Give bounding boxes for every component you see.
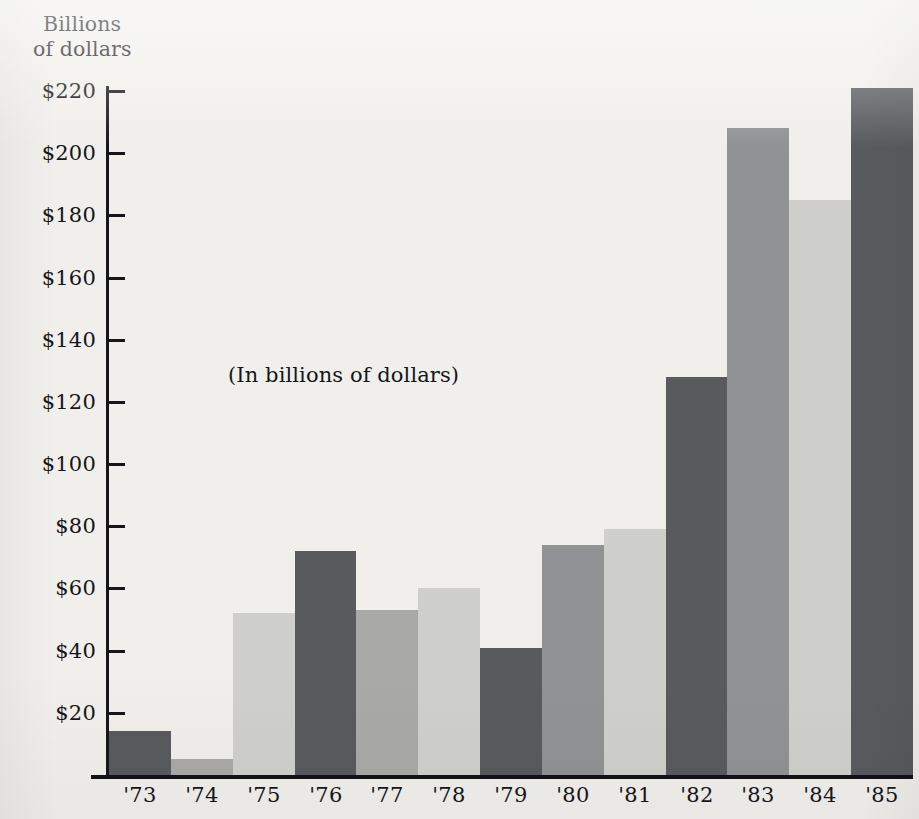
bar	[542, 545, 604, 775]
x-axis-tick-label: '73	[109, 783, 171, 807]
bar	[604, 529, 666, 775]
x-axis-tick-label: '77	[356, 783, 418, 807]
x-axis-tick-label: '75	[233, 783, 295, 807]
bar	[295, 551, 356, 775]
bar	[418, 588, 480, 775]
y-axis-labels: $20$40$60$80$100$120$140$160$180$200$220	[8, 0, 96, 819]
bar	[480, 648, 542, 775]
x-axis-tick-label: '80	[542, 783, 604, 807]
bar	[851, 88, 913, 775]
bar	[789, 200, 851, 775]
y-axis-tick-label: $120	[8, 390, 96, 414]
y-axis-tick-label: $20	[8, 701, 96, 725]
x-axis-tick-label: '85	[851, 783, 913, 807]
y-axis-tick-label: $40	[8, 639, 96, 663]
y-axis-tick-label: $80	[8, 514, 96, 538]
x-axis-tick-label: '76	[295, 783, 357, 807]
y-axis-tick-label: $180	[8, 203, 96, 227]
x-axis-tick-label: '83	[727, 783, 789, 807]
bar	[356, 610, 418, 775]
x-axis-tick-label: '82	[666, 783, 728, 807]
x-axis-tick-label: '79	[480, 783, 542, 807]
x-axis-tick-label: '74	[171, 783, 233, 807]
y-axis-tick-label: $60	[8, 576, 96, 600]
x-axis-tick-label: '84	[789, 783, 851, 807]
y-axis-tick-label: $220	[8, 79, 96, 103]
x-axis-tick-label: '81	[604, 783, 666, 807]
y-axis-tick-label: $160	[8, 266, 96, 290]
chart-annotation: (In billions of dollars)	[228, 363, 459, 387]
bar-series	[109, 0, 913, 819]
bar	[109, 731, 171, 775]
y-axis-tick-label: $100	[8, 452, 96, 476]
bar	[171, 759, 233, 775]
bar	[727, 128, 789, 775]
bar	[233, 613, 295, 775]
x-axis-labels: '73'74'75'76'77'78'79'80'81'82'83'84'85	[109, 783, 913, 819]
bar-chart-figure: Billions of dollars $20$40$60$80$100$120…	[0, 0, 919, 819]
x-axis-tick-label: '78	[418, 783, 480, 807]
bar	[666, 377, 727, 775]
y-axis-tick-label: $200	[8, 141, 96, 165]
y-axis-tick-label: $140	[8, 328, 96, 352]
